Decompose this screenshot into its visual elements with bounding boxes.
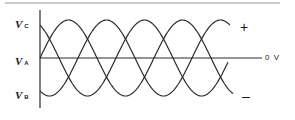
plus-label: + [240, 20, 248, 34]
label-vb-main: V [15, 89, 22, 101]
zero-volt-label: 0 V [265, 54, 280, 62]
label-vb: VB [15, 86, 29, 102]
label-vc: VC [15, 15, 29, 31]
label-va-main: V [15, 55, 22, 67]
label-vb-sub: B [24, 94, 28, 100]
label-vc-sub: C [24, 23, 28, 29]
label-va-sub: A [24, 60, 28, 66]
label-vc-main: V [15, 18, 22, 30]
minus-label: – [242, 89, 250, 103]
label-va: VA [15, 52, 29, 68]
three-phase-waveform-diagram [0, 0, 295, 120]
